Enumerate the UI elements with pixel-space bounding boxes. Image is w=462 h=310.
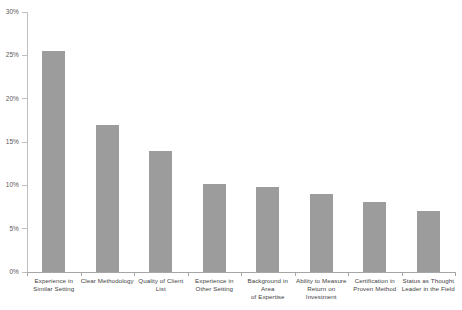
x-axis-category-label-line: Experience in xyxy=(188,277,242,285)
x-axis-category-label: Experience inOther Setting xyxy=(188,277,242,293)
x-axis-category-label-line: Other Setting xyxy=(188,285,242,293)
x-axis-category-label: Status as ThoughtLeader in the Field xyxy=(402,277,456,293)
bar xyxy=(42,51,65,272)
x-axis-tick xyxy=(348,272,349,276)
x-axis-tick xyxy=(27,272,28,276)
x-axis-tick xyxy=(295,272,296,276)
x-axis-category-label-line: List xyxy=(134,285,188,293)
x-axis-tick xyxy=(134,272,135,276)
x-axis-category-label-line: Background in Area xyxy=(241,277,295,293)
bar xyxy=(256,187,279,272)
x-axis-category-label: Background in Areaof Expertise xyxy=(241,277,295,302)
x-axis-category-label-line: Clear Methodology xyxy=(81,277,135,285)
bar xyxy=(203,184,226,272)
x-axis-category-label-line: Return on xyxy=(295,285,349,293)
x-axis-tick xyxy=(455,272,456,276)
bar xyxy=(417,211,440,272)
x-axis-category-label-line: Leader in the Field xyxy=(402,285,456,293)
x-axis-category-label: Clear Methodology xyxy=(81,277,135,285)
x-axis-category-label-line: Investment xyxy=(295,293,349,301)
x-axis-category-label: Ability to MeasureReturn onInvestment xyxy=(295,277,349,302)
x-axis-category-label-line: Experience in xyxy=(27,277,81,285)
bar-chart: 30%25%20%15%10%5%0% Experience inSimilar… xyxy=(0,0,462,310)
bar xyxy=(310,194,333,272)
bar xyxy=(363,202,386,272)
bar xyxy=(149,151,172,272)
x-axis-tick xyxy=(188,272,189,276)
x-axis-tick xyxy=(402,272,403,276)
x-axis-category-label: Experience inSimilar Setting xyxy=(27,277,81,293)
x-axis-category-label-line: Quality of Client xyxy=(134,277,188,285)
x-axis-category-label-line: Similar Setting xyxy=(27,285,81,293)
bars-layer xyxy=(0,12,462,272)
bar xyxy=(96,125,119,272)
x-axis-category-label-line: Proven Method xyxy=(348,285,402,293)
x-axis-category-label-line: Certification in xyxy=(348,277,402,285)
x-axis-category-label-line: Status as Thought xyxy=(402,277,456,285)
x-axis-tick xyxy=(81,272,82,276)
x-axis-category-label: Quality of ClientList xyxy=(134,277,188,293)
x-axis-tick xyxy=(241,272,242,276)
x-axis-category-label-line: of Expertise xyxy=(241,293,295,301)
x-axis-category-label: Certification inProven Method xyxy=(348,277,402,293)
x-axis-category-label-line: Ability to Measure xyxy=(295,277,349,285)
